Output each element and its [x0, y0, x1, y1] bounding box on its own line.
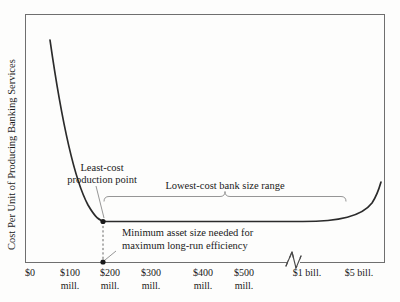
lowest-cost-range-label: Lowest-cost bank size range: [165, 180, 285, 191]
x-tick-label-2-line2: mill.: [101, 280, 120, 291]
least-cost-label-line2: production point: [67, 174, 137, 185]
chart-figure: Cost Per Unit of Producing Banking Servi…: [0, 0, 400, 302]
x-tick-label-1-line1: $100: [60, 267, 80, 278]
plot-frame: [26, 15, 385, 263]
x-tick-label-4-line1: $400: [193, 267, 213, 278]
x-tick-label-7-line1: $5 bill.: [345, 267, 373, 278]
x-tick-label-3-line2: mill.: [142, 280, 161, 291]
x-tick-label-5-line1: $500: [234, 267, 254, 278]
minimum-asset-leader-line: [105, 251, 116, 260]
cost-curve-chart: Cost Per Unit of Producing Banking Servi…: [0, 0, 400, 302]
lowest-cost-range-bracket: [104, 192, 346, 202]
least-cost-label-line1: Least-cost: [80, 162, 123, 173]
x-tick-label-4-line2: mill.: [194, 280, 213, 291]
least-cost-leader-line: [96, 186, 104, 218]
x-tick-label-3-line1: $300: [141, 267, 161, 278]
x-tick-label-5-line2: mill.: [235, 280, 254, 291]
axis-minimum-dot: [100, 259, 105, 264]
y-axis-title: Cost Per Unit of Producing Banking Servi…: [6, 59, 17, 250]
minimum-asset-label-line2: maximum long-run efficiency: [122, 240, 249, 251]
x-tick-label-1-line2: mill.: [61, 280, 80, 291]
x-tick-label-0-line1: $0: [25, 267, 35, 278]
long-run-average-cost-curve: [50, 40, 381, 222]
minimum-asset-label-line1: Minimum asset size needed for: [122, 227, 254, 238]
x-tick-label-6-line1: $1 bill.: [293, 267, 321, 278]
curve-minimum-dot: [100, 219, 105, 224]
x-tick-label-2-line1: $200: [100, 267, 120, 278]
